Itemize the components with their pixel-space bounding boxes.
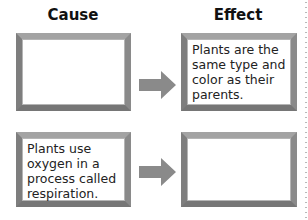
cause-box-2[interactable]: Plants use oxygen in a process called re… xyxy=(16,132,131,207)
arrow-right-icon xyxy=(139,157,177,187)
effect-text-1: Plants are the same type and color as th… xyxy=(192,42,288,102)
effect-box-1[interactable]: Plants are the same type and color as th… xyxy=(181,33,297,111)
arrow-right-icon xyxy=(139,70,177,100)
cause-heading: Cause xyxy=(16,6,130,24)
dotted-divider xyxy=(305,0,307,220)
effect-heading: Effect xyxy=(181,6,295,24)
cause-text-2: Plants use oxygen in a process called re… xyxy=(27,141,122,201)
effect-box-2[interactable] xyxy=(181,132,297,207)
cause-box-1[interactable] xyxy=(16,33,131,111)
